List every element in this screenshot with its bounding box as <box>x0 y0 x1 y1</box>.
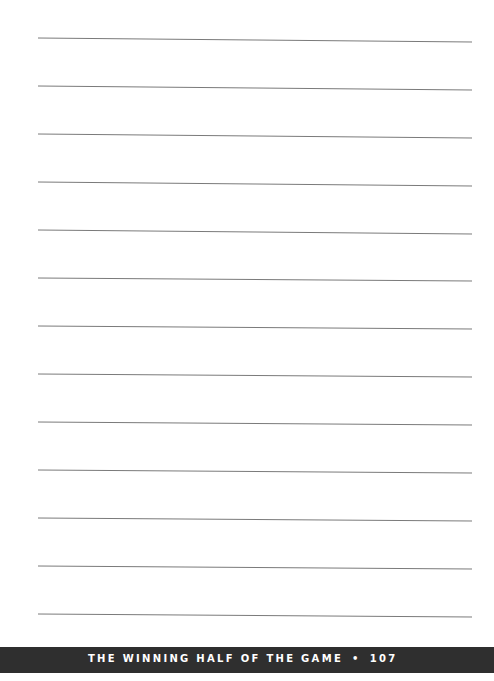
footer-separator: • <box>352 653 361 664</box>
writing-line <box>38 278 472 281</box>
writing-line <box>38 230 472 234</box>
writing-line <box>38 470 472 473</box>
book-title: THE WINNING HALF OF THE GAME <box>88 653 343 664</box>
writing-line <box>38 38 472 42</box>
writing-line <box>38 422 472 425</box>
writing-line <box>38 326 472 329</box>
page-number: 107 <box>370 653 398 664</box>
writing-line <box>38 86 472 90</box>
writing-line <box>38 134 472 138</box>
writing-lines <box>0 0 494 681</box>
page-footer: THE WINNING HALF OF THE GAME•107 <box>0 647 494 673</box>
footer-text: THE WINNING HALF OF THE GAME•107 <box>88 653 398 664</box>
notes-page: THE WINNING HALF OF THE GAME•107 <box>0 0 494 681</box>
writing-line <box>38 374 472 377</box>
writing-line <box>38 518 472 521</box>
writing-line <box>38 566 472 569</box>
writing-line <box>38 182 472 186</box>
writing-line <box>38 614 472 617</box>
